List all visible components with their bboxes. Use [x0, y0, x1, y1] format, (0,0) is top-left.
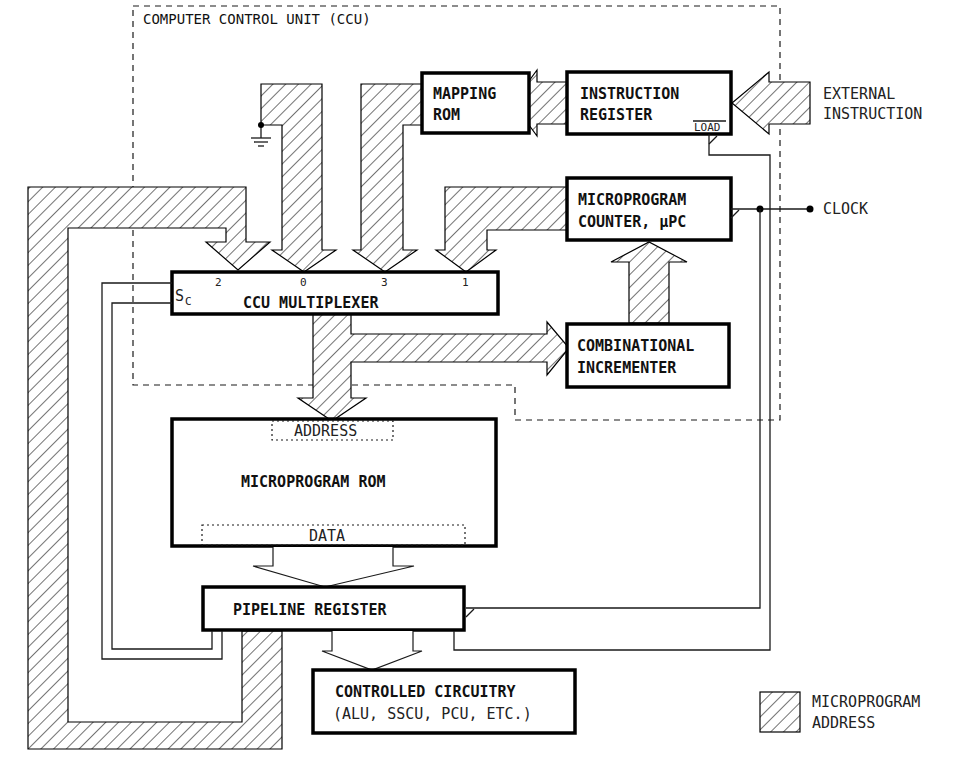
incrementer-label: COMBINATIONAL	[577, 337, 694, 355]
clock-terminal	[807, 206, 814, 213]
controlled-circuitry-block	[313, 670, 575, 733]
legend-hatch-swatch	[760, 692, 800, 732]
pipeline-clock-edge-icon	[466, 609, 474, 617]
mux-input-2-label: 2	[215, 276, 222, 289]
mux-input-3-label: 3	[381, 276, 388, 289]
mux-input-1-label: 1	[462, 276, 469, 289]
clock-label: CLOCK	[823, 200, 868, 218]
mux-output-bus	[298, 314, 569, 421]
micro-pc-bus	[436, 187, 570, 272]
clock-to-pipeline-wire	[466, 209, 760, 608]
pipeline-to-circuitry-arrow	[322, 631, 422, 670]
controlled-circuitry-label: CONTROLLED CIRCUITRY	[335, 683, 516, 701]
mux-select-label: S	[175, 287, 184, 305]
zero-input-bus	[261, 84, 336, 272]
load-label: LOAD	[694, 121, 721, 134]
micro-pc-label-2: COUNTER, µPC	[578, 213, 686, 231]
incrementer-to-pc-bus	[611, 242, 687, 323]
mapping-rom-block	[422, 73, 529, 133]
micro-pc-label: MICROPROGRAM	[578, 191, 686, 209]
mux-select-subscript: C	[185, 295, 192, 308]
incrementer-label-2: INCREMENTER	[577, 359, 677, 377]
instruction-register-label: INSTRUCTION	[580, 85, 679, 103]
ccu-multiplexer-label: CCU MULTIPLEXER	[243, 294, 379, 312]
pipeline-register-label: PIPELINE REGISTER	[233, 601, 387, 619]
controlled-circuitry-sublabel: (ALU, SSCU, PCU, ETC.)	[333, 705, 532, 723]
legend-label-2: ADDRESS	[812, 714, 875, 732]
microprogram-rom-label: MICROPROGRAM ROM	[241, 473, 386, 491]
legend-label: MICROPROGRAM	[812, 693, 920, 711]
data-label: DATA	[309, 527, 345, 545]
mapping-rom-label: MAPPING	[433, 85, 496, 103]
mapping-rom-bus	[353, 84, 422, 272]
external-instruction-bus	[732, 72, 810, 134]
ir-load-edge-icon	[709, 136, 717, 144]
ccu-block-diagram: COMPUTER CONTROL UNIT (CCU) MAPPING ROM …	[0, 0, 977, 764]
address-label: ADDRESS	[294, 422, 357, 440]
mapping-rom-label-2: ROM	[433, 106, 460, 124]
instruction-register-label-2: REGISTER	[580, 106, 653, 124]
ccu-title: COMPUTER CONTROL UNIT (CCU)	[143, 11, 371, 27]
ground-junction	[258, 122, 264, 128]
incrementer-block	[567, 324, 729, 387]
external-instruction-label-2: INSTRUCTION	[823, 105, 922, 123]
mux-input-0-label: 0	[300, 276, 307, 289]
external-instruction-label: EXTERNAL	[823, 85, 895, 103]
rom-to-pipeline-arrow	[253, 547, 414, 587]
